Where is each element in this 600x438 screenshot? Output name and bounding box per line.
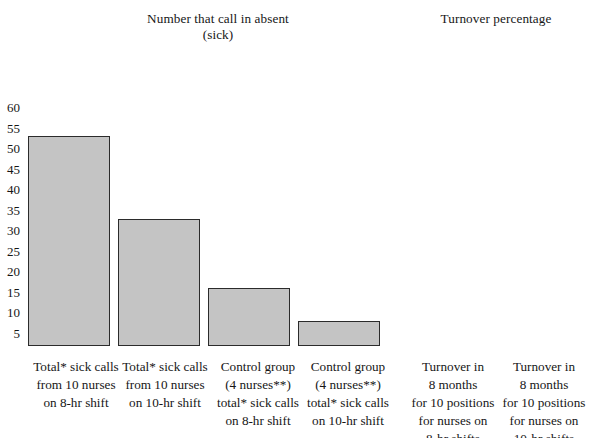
chart-panel-sick-calls: Number that call in absent (sick) 605550…: [0, 0, 392, 438]
bar-series-sick-calls: [26, 120, 381, 346]
y-axis-tick-label: 35: [0, 203, 20, 216]
chart-title-turnover: Turnover percentage: [396, 11, 596, 27]
bar: [208, 288, 290, 346]
y-axis-tick-label: 30: [0, 224, 20, 237]
y-axis-tick-label: 45: [0, 162, 20, 175]
y-axis-tick-label: 10: [0, 306, 20, 319]
y-axis-tick-label: 25: [0, 244, 20, 257]
y-axis-tick-label: 5: [0, 327, 20, 340]
y-axis-tick-label: 60: [0, 101, 20, 114]
bar: [298, 321, 380, 346]
category-label: Turnover in 8 months for 10 positions fo…: [492, 358, 596, 438]
figure-canvas: Number that call in absent (sick) 605550…: [0, 0, 600, 438]
bar: [118, 219, 200, 346]
plot-area-sick-calls: 60555045403530252015105: [26, 120, 381, 346]
y-axis-tick-label: 40: [0, 183, 20, 196]
y-axis-tick-label: 15: [0, 285, 20, 298]
chart-title-sick-calls: Number that call in absent (sick): [108, 11, 328, 43]
category-label: Control group (4 nurses**) total* sick c…: [293, 358, 403, 430]
y-axis-tick-label: 20: [0, 265, 20, 278]
bar: [28, 136, 110, 346]
category-label: Turnover in 8 months for 10 positions fo…: [401, 358, 505, 438]
category-labels-turnover: Turnover in 8 months for 10 positions fo…: [392, 358, 600, 436]
y-axis-tick-label: 50: [0, 142, 20, 155]
chart-panel-turnover: Turnover percentage 75706560555045403530…: [392, 0, 600, 438]
y-axis-tick-label: 55: [0, 121, 20, 134]
category-labels-sick-calls: Total* sick calls from 10 nurses on 8-hr…: [0, 358, 392, 436]
